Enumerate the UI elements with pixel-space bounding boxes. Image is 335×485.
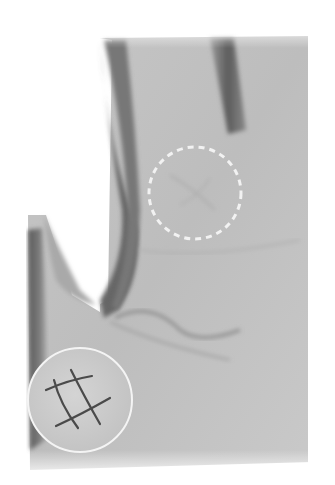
palm-illustration	[0, 0, 335, 485]
inset-circle	[28, 348, 132, 452]
palm-photo	[0, 0, 335, 485]
